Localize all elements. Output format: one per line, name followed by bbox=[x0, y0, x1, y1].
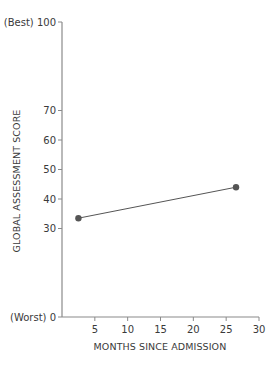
x-tick-label: 15 bbox=[154, 324, 167, 335]
x-tick-label: 25 bbox=[220, 324, 233, 335]
y-tick-label: 30 bbox=[43, 223, 56, 234]
y-tick-label: 60 bbox=[43, 135, 56, 146]
data-point-marker bbox=[233, 184, 239, 190]
x-tick-label: 10 bbox=[121, 324, 134, 335]
x-axis-title: MONTHS SINCE ADMISSION bbox=[94, 341, 227, 352]
y-tick-label: 40 bbox=[43, 194, 56, 205]
y-tick-label: (Best) 100 bbox=[4, 17, 56, 28]
y-tick-label: 50 bbox=[43, 164, 56, 175]
y-tick-label: (Worst) 0 bbox=[10, 312, 56, 323]
series-line bbox=[78, 187, 236, 218]
data-point-marker bbox=[75, 215, 81, 221]
y-tick-label: 70 bbox=[43, 105, 56, 116]
x-tick-label: 30 bbox=[253, 324, 266, 335]
y-axis-title: GLOBAL ASSESSMENT SCORE bbox=[11, 110, 22, 253]
x-tick-label: 20 bbox=[187, 324, 200, 335]
line-chart: (Worst) 03040506070(Best) 10051015202530… bbox=[0, 0, 278, 365]
axes: (Worst) 03040506070(Best) 10051015202530 bbox=[4, 17, 266, 336]
x-tick-label: 5 bbox=[92, 324, 98, 335]
plot-area bbox=[75, 184, 239, 221]
